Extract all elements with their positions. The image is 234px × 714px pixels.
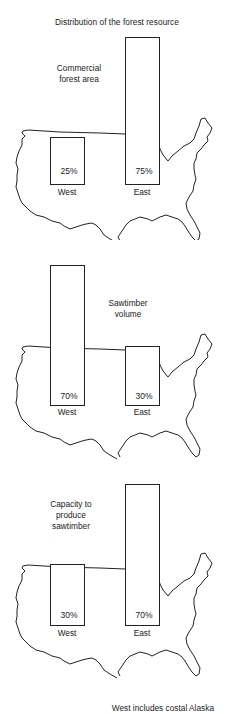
us-map-outline: [0, 0, 234, 714]
footnote: West includes costal Alaska: [112, 703, 214, 713]
category-east: East: [125, 628, 159, 638]
panel-capacity-sawtimber: Capacity to produce sawtimber 30% 70% We…: [0, 0, 234, 714]
bar-east: [125, 484, 160, 626]
category-west: West: [50, 628, 84, 638]
panel-label: Capacity to produce sawtimber: [44, 499, 98, 532]
value-west: 30%: [52, 610, 86, 620]
value-east: 70%: [127, 610, 161, 620]
